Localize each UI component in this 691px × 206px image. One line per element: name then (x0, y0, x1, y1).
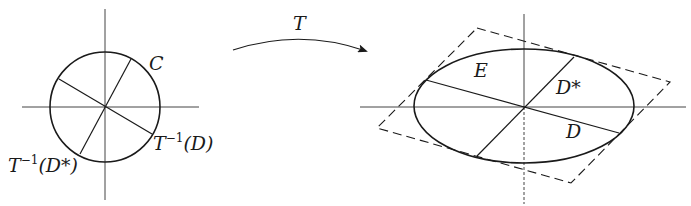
left-panel: C T−1(D) T−1(D*) (8, 9, 213, 200)
label-t-inverse-dstar: T−1(D*) (8, 153, 78, 176)
right-panel: E D* D (360, 14, 686, 204)
diagram-canvas: C T−1(D) T−1(D*) T E D* D (0, 0, 691, 206)
label-dstar: D* (555, 76, 581, 98)
transform-arrow: T (233, 12, 366, 51)
label-d: D (565, 120, 581, 142)
label-e: E (473, 59, 488, 81)
label-t-inverse-d: T−1(D) (153, 131, 213, 154)
arrow-curve-icon (233, 39, 366, 51)
label-transform-t: T (293, 12, 307, 34)
label-c: C (149, 52, 164, 74)
